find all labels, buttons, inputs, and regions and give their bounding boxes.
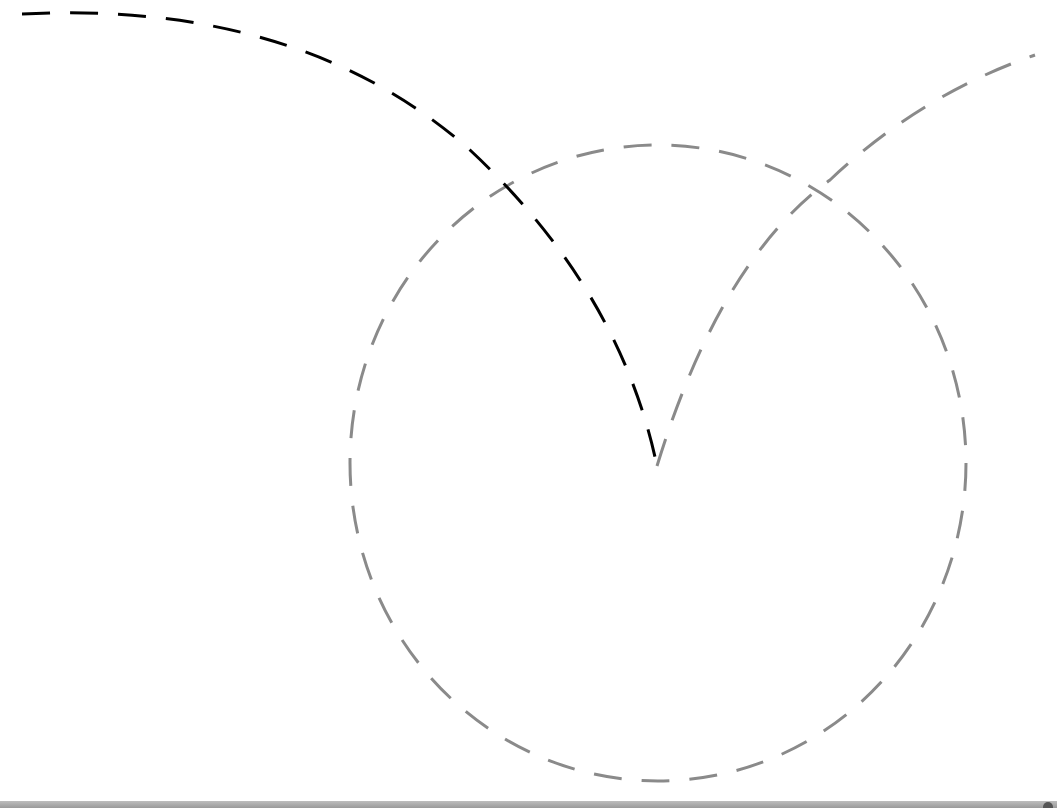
drawing-canvas bbox=[0, 0, 1057, 800]
gray-dashed-arc bbox=[657, 55, 1035, 466]
scroll-handle[interactable] bbox=[1043, 802, 1053, 808]
bottom-scrollbar[interactable] bbox=[0, 801, 1057, 808]
black-dashed-arc bbox=[22, 13, 657, 466]
